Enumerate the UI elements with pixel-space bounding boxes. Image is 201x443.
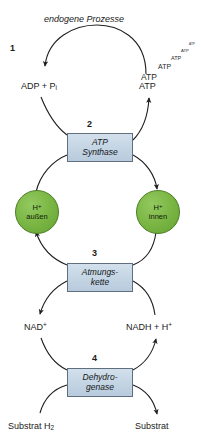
box-dehydrogenase-line2: genase: [83, 383, 118, 393]
arrow-atmungskette-to-nad: [40, 281, 67, 314]
arrow-h-inside-to-atmungskette: [133, 232, 156, 265]
node-substrat: Substrat: [135, 422, 169, 431]
step-number-4: 4: [92, 354, 97, 363]
circle-h-outside-location: außen: [26, 213, 47, 222]
box-atp-synthase-line2: Synthase: [82, 148, 117, 158]
box-atmungskette-text: Atmungs- kette: [80, 268, 120, 288]
arrow-nad-to-dehydrogenase: [41, 338, 67, 370]
circle-h-inside-text: H+ innen: [149, 203, 167, 222]
box-dehydrogenase-text: Dehydro- genase: [81, 373, 120, 393]
endogene-prozesse-label: endogene Prozesse: [44, 15, 124, 24]
node-substrat-h2-subscript: 2: [51, 424, 55, 431]
arrow-endogene-prozesse: [45, 25, 146, 74]
circle-h-outside-text: H+ außen: [26, 203, 47, 222]
arrow-h-outside-to-synthase: [36, 155, 67, 192]
node-nad-plus-charge: +: [43, 321, 47, 328]
step-number-3: 3: [92, 249, 97, 258]
step-number-2: 2: [87, 120, 92, 129]
atp-cascade-item-1: ATP: [141, 72, 157, 82]
arrow-synthase-to-atp: [133, 98, 149, 140]
circle-h-inside-location: innen: [149, 213, 167, 222]
circle-h-outside-charge: +: [38, 203, 42, 209]
node-substrat-h2-text: Substrat H: [8, 421, 51, 431]
node-atp: ATP: [139, 82, 156, 91]
circle-h-inside-charge: +: [159, 203, 163, 209]
node-substrat-h2: Substrat H2: [8, 422, 54, 432]
arrow-dehydrogenase-to-substrat: [133, 385, 157, 414]
box-dehydrogenase[interactable]: Dehydro- genase: [67, 368, 133, 397]
atp-cascade-item-4: ATP: [181, 48, 189, 53]
step-number-1: 1: [10, 44, 15, 53]
metabolism-cycle-diagram: endogene Prozesse 1 ADP + Pi ATP ATP ATP…: [0, 0, 201, 443]
atp-cascade-item-3: ATP: [171, 55, 181, 61]
box-atp-synthase-text: ATP Synthase: [80, 138, 119, 158]
arrow-atmungskette-to-nadh: [133, 281, 155, 315]
node-nad-plus: NAD+: [24, 322, 47, 332]
node-nadh: NADH + H+: [126, 322, 172, 332]
node-adp-pi-text: ADP + P: [21, 81, 56, 91]
node-adp-pi: ADP + Pi: [21, 82, 57, 92]
box-atmungskette-line2: kette: [82, 278, 118, 288]
node-nadh-text: NADH + H: [126, 322, 168, 332]
arrow-synthase-to-h-inside: [133, 155, 157, 189]
arrow-dehydrogenase-to-nadh: [133, 339, 156, 370]
atp-cascade-item-2: ATP: [158, 63, 171, 70]
node-nadh-charge: +: [168, 321, 172, 328]
arrow-atmungskette-to-h-outside: [36, 232, 67, 265]
circle-h-inside[interactable]: H+ innen: [136, 190, 180, 234]
arrow-substrath2-to-dehydrogenase: [40, 385, 67, 413]
arrow-adp-to-synthase: [41, 97, 67, 135]
circle-h-outside[interactable]: H+ außen: [15, 190, 59, 234]
box-atp-synthase[interactable]: ATP Synthase: [67, 133, 133, 162]
box-atmungskette[interactable]: Atmungs- kette: [67, 263, 133, 292]
node-nad-plus-text: NAD: [24, 322, 43, 332]
atp-cascade-item-5: ATP: [189, 42, 195, 46]
node-adp-pi-subscript: i: [56, 84, 57, 91]
